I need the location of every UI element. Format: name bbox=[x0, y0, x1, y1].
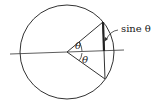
sine-segment bbox=[103, 22, 104, 51]
theta-lower-label: θ bbox=[82, 54, 88, 65]
sine-diagram: θ θ sine θ bbox=[0, 0, 165, 112]
upper-radius bbox=[67, 22, 103, 52]
theta-upper-label: θ bbox=[75, 40, 81, 51]
sine-theta-label: sine θ bbox=[121, 23, 151, 34]
